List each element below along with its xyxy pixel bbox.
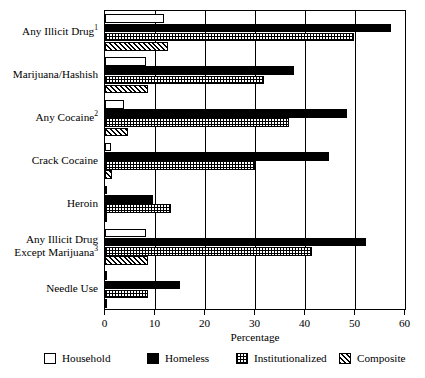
bar-group <box>105 14 405 50</box>
bar-composite <box>105 256 148 265</box>
category-label: Marijuana/Hashish <box>13 68 98 81</box>
legend-item-household[interactable]: Household <box>44 352 110 364</box>
bar-institutionalized <box>105 290 148 299</box>
bar-homeless <box>105 238 366 247</box>
legend-label: Household <box>62 352 110 364</box>
bar-composite <box>105 170 112 179</box>
bar-household <box>105 14 164 23</box>
bar-composite <box>105 85 148 94</box>
bar-institutionalized <box>105 33 354 42</box>
bar-homeless <box>105 24 391 33</box>
x-tick-label: 0 <box>102 317 108 329</box>
legend-label: Composite <box>357 352 405 364</box>
x-tick-label: 50 <box>349 317 360 329</box>
x-tick <box>204 310 205 315</box>
bar-homeless <box>105 109 347 118</box>
bar-group <box>105 229 405 265</box>
x-tick <box>404 310 405 315</box>
category-label: Crack Cocaine <box>32 154 98 167</box>
bar-household <box>105 229 146 238</box>
x-tick <box>154 310 155 315</box>
bar-homeless <box>105 281 180 290</box>
bar-household <box>105 57 146 66</box>
legend-swatch-icon <box>339 353 351 364</box>
category-label: Any Illicit Drug1 <box>22 25 98 38</box>
bar-institutionalized <box>105 118 289 127</box>
legend-item-institutionalized[interactable]: Institutionalized <box>236 352 327 364</box>
legend-item-homeless[interactable]: Homeless <box>147 352 209 364</box>
x-tick-label: 40 <box>299 317 310 329</box>
legend-label: Homeless <box>165 352 209 364</box>
category-label: Any Illicit DrugExcept Marijuana3 <box>14 233 98 258</box>
legend-item-composite[interactable]: Composite <box>339 352 405 364</box>
bar-household <box>105 143 111 152</box>
x-tick-label: 10 <box>149 317 160 329</box>
x-tick <box>304 310 305 315</box>
bar-composite <box>105 299 107 308</box>
bar-institutionalized <box>105 76 264 85</box>
bar-composite <box>105 213 107 222</box>
chart-legend: HouseholdHomelessInstitutionalizedCompos… <box>44 352 404 368</box>
bar-institutionalized <box>105 204 171 213</box>
bar-homeless <box>105 66 294 75</box>
bar-household <box>105 100 124 109</box>
legend-swatch-icon <box>147 353 159 364</box>
bar-group <box>105 143 405 179</box>
bar-group <box>105 271 405 307</box>
legend-label: Institutionalized <box>254 352 327 364</box>
bar-household <box>105 186 107 195</box>
x-tick-label: 60 <box>399 317 410 329</box>
x-tick <box>254 310 255 315</box>
bar-household <box>105 271 107 280</box>
x-axis-ticks <box>104 310 406 316</box>
bar-institutionalized <box>105 247 312 256</box>
category-label: Any Cocaine2 <box>35 111 98 124</box>
x-tick <box>354 310 355 315</box>
bar-group <box>105 57 405 93</box>
bar-chart: Any Illicit Drug1Marijuana/HashishAny Co… <box>0 0 425 378</box>
bar-homeless <box>105 195 153 204</box>
bar-group <box>105 100 405 136</box>
footnote-marker: 1 <box>94 23 98 32</box>
x-tick-label: 30 <box>249 317 260 329</box>
bar-group <box>105 186 405 222</box>
bar-institutionalized <box>105 161 255 170</box>
bar-composite <box>105 42 168 51</box>
bar-composite <box>105 128 128 137</box>
category-label: Heroin <box>67 197 98 210</box>
legend-swatch-icon <box>236 353 248 364</box>
category-label: Needle Use <box>46 282 98 295</box>
plot-area <box>104 10 406 310</box>
legend-swatch-icon <box>44 353 56 364</box>
footnote-marker: 2 <box>94 109 98 118</box>
x-tick-label: 20 <box>199 317 210 329</box>
category-axis-labels: Any Illicit Drug1Marijuana/HashishAny Co… <box>0 10 100 310</box>
x-axis-title: Percentage <box>104 331 406 343</box>
footnote-marker: 3 <box>94 244 98 253</box>
bar-homeless <box>105 152 329 161</box>
x-tick <box>104 310 105 315</box>
